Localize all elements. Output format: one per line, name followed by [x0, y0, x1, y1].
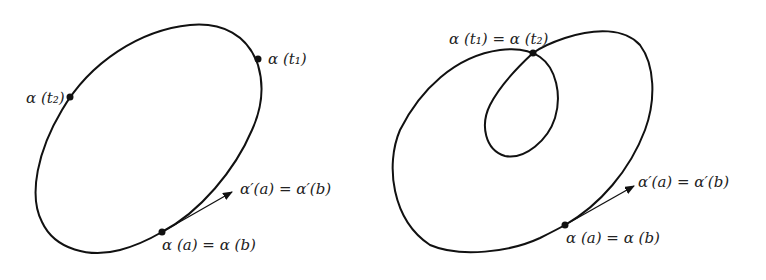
label-alpha-t2: α (t₂) [26, 89, 65, 107]
figure-simple-closed-curve: α (t₁) α (t₂) α′(a) = α′(b) α (a) = α (b… [26, 25, 331, 254]
diagram-canvas: α (t₁) α (t₂) α′(a) = α′(b) α (a) = α (b… [0, 0, 766, 280]
point-intersection [530, 50, 537, 57]
closed-curve [36, 25, 262, 253]
label-intersection: α (t₁) = α (t₂) [449, 30, 549, 48]
tangent-vector-arrow [565, 186, 634, 225]
label-start-point: α (a) = α (b) [162, 236, 256, 254]
label-start-point: α (a) = α (b) [566, 229, 660, 247]
label-alpha-t1: α (t₁) [268, 50, 307, 68]
closed-curve-with-loop [393, 31, 653, 252]
label-tangent: α′(a) = α′(b) [240, 180, 331, 198]
point-alpha-t1 [255, 56, 262, 63]
figure-self-intersecting-curve: α (t₁) = α (t₂) α′(a) = α′(b) α (a) = α … [393, 30, 730, 252]
label-tangent: α′(a) = α′(b) [638, 173, 729, 191]
point-alpha-t2 [67, 94, 74, 101]
tangent-vector-arrow [162, 192, 232, 232]
